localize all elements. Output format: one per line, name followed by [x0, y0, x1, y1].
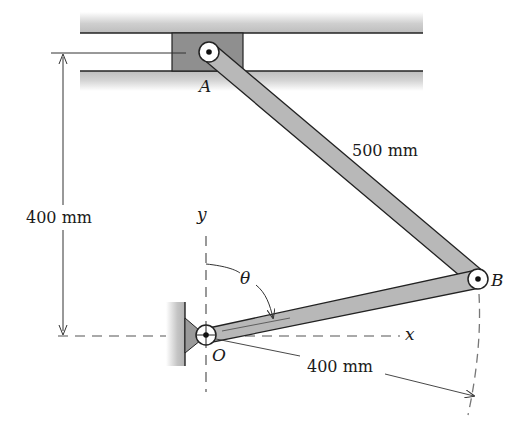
- pin-O-center-icon: [203, 332, 209, 338]
- theta-label: θ: [240, 268, 250, 288]
- upper-rail: [80, 12, 423, 33]
- crank-radius-leader-1: [216, 339, 300, 356]
- point-B-label: B: [490, 270, 504, 290]
- point-O-label: O: [212, 345, 226, 365]
- pin-A-center-icon: [206, 49, 212, 55]
- crank-path-arc: [468, 294, 480, 415]
- crank-length-label: 400 mm: [307, 357, 373, 376]
- wall-support: [166, 302, 185, 366]
- pin-B-center-icon: [475, 276, 481, 282]
- link-AB-length-label: 500 mm: [352, 141, 418, 160]
- pin-B: [468, 269, 488, 289]
- vertical-dimension: [51, 53, 186, 335]
- theta-arc: [206, 264, 240, 273]
- pin-A: [199, 42, 219, 62]
- theta-arc-arrow: [256, 285, 273, 318]
- point-A-label: A: [197, 76, 211, 96]
- pin-O: [196, 325, 216, 345]
- crank-radius-leader-2: [385, 374, 474, 396]
- vertical-dimension-label: 400 mm: [26, 208, 92, 227]
- y-axis-label: y: [196, 204, 207, 224]
- x-axis-label: x: [405, 324, 415, 344]
- mechanism-diagram: 400 mm x y 500 mm θ 400 mm A B O: [0, 0, 530, 433]
